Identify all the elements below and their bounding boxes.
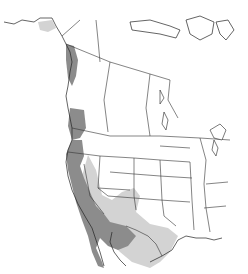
- range-map: [0, 0, 248, 274]
- lakes: [160, 90, 226, 156]
- arctic-islands: [130, 16, 234, 40]
- north-america-map: [0, 0, 248, 274]
